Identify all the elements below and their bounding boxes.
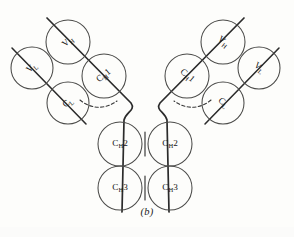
domain-label-left-cl: CL [60, 95, 75, 110]
domain-label-left-ch2: CH2 [112, 138, 128, 149]
scan-edge-artifact [0, 227, 294, 237]
domain-label-right-ch2: CH2 [162, 138, 178, 149]
domain-label-right-vh: VH [215, 34, 231, 50]
disulfide-bond [80, 100, 117, 107]
figure-caption: (b) [0, 206, 294, 217]
domain-label-right-ch3: CH3 [162, 182, 178, 193]
light-chain-group [12, 48, 279, 124]
antibody-diagram-canvas: VHVLCH1CLVHVLCH1CLCH2CH2CH3CH3 [0, 0, 294, 237]
domain-label-left-ch3: CH3 [112, 182, 128, 193]
domain-label-left-vh: VH [60, 34, 76, 50]
antibody-domain-figure: VHVLCH1CLVHVLCH1CLCH2CH2CH3CH3 (b) [0, 0, 294, 237]
domain-label-right-cl: CL [216, 95, 231, 110]
domain-label-group: VHVLCH1CLVHVLCH1CLCH2CH2CH3CH3 [24, 34, 267, 193]
disulfide-bond [174, 100, 211, 107]
